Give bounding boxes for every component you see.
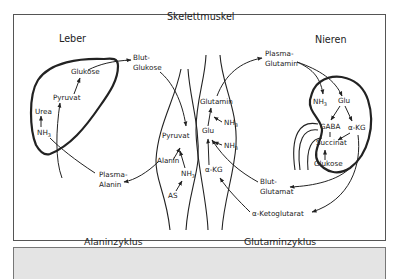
plasma-glutamin-line1: Plasma- — [265, 49, 294, 58]
muscle-akg: α-KG — [205, 165, 223, 174]
liver-nh3: NH3 — [37, 128, 51, 138]
muscle-glu: Glu — [202, 126, 214, 135]
blut-glukose-line2: Glukose — [133, 63, 162, 72]
kidney-succinat: Succinat — [316, 138, 347, 147]
plasma-alanin-line1: Plasma- — [99, 170, 128, 179]
muscle-as: AS — [168, 191, 178, 200]
kidney-glukose: Glukose — [314, 159, 343, 168]
glutamine-cycle-label: Glutaminzyklus — [244, 236, 316, 247]
plasma-alanin-line2: Alanin — [99, 180, 121, 189]
kidney-nh3: NH3 — [313, 97, 327, 107]
muscle-alanin: Alanin — [157, 156, 179, 165]
liver-pyruvat: Pyruvat — [53, 93, 81, 102]
muscle-title: Skelettmuskel — [167, 11, 235, 22]
metabolic-cycles-diagram: Leber Skelettmuskel Nieren Glukose Pyruv… — [0, 0, 401, 279]
kidney-gaba: GABA — [320, 122, 340, 131]
blut-glutamat-line1: Blut- — [260, 177, 277, 186]
kidney-title: Nieren — [315, 34, 346, 45]
alanine-cycle-label: Alaninzyklus — [84, 236, 143, 247]
kidney-glu: Glu — [338, 96, 350, 105]
alpha-ketoglutarat-label: α-Ketoglutarat — [252, 209, 304, 218]
kidney-akg: α-KG — [348, 123, 366, 132]
muscle-nh3: NH3 — [181, 169, 195, 179]
muscle-pyruvat: Pyruvat — [162, 131, 190, 140]
muscle-nh3-upper: NH3 — [224, 118, 238, 128]
liver-glukose: Glukose — [71, 67, 100, 76]
liver-title: Leber — [59, 33, 86, 44]
blut-glukose-line1: Blut- — [133, 53, 150, 62]
blut-glutamat-line2: Glutamat — [260, 187, 294, 196]
liver-urea: Urea — [35, 107, 52, 116]
muscle-glutamin: Glutamin — [200, 97, 233, 106]
plasma-glutamin-line2: Glutamin — [265, 59, 298, 68]
